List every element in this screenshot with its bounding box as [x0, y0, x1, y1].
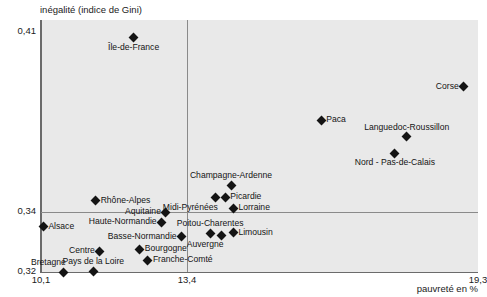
- data-point-label: Pays de la Loire: [62, 257, 124, 266]
- data-point-label: Bretagne: [31, 258, 66, 267]
- data-point-label: Alsace: [48, 222, 74, 231]
- x-tick-label-134: 13,4: [178, 274, 197, 285]
- data-point-label: Île-de-France: [108, 43, 159, 52]
- x-tick-label-101: 10,1: [32, 274, 51, 285]
- data-point-label: Aquitaine: [125, 207, 161, 216]
- data-point-label: Languedoc-Roussillon: [364, 123, 449, 132]
- data-point-label: Haute-Normandie: [89, 217, 157, 226]
- x-axis-line: [40, 272, 478, 274]
- data-point-label: Picardie: [230, 192, 261, 201]
- data-point-label: Nord - Pas-de-Calais: [355, 158, 435, 167]
- data-point-label: Corse: [436, 82, 459, 91]
- data-point-label: Basse-Normandie: [108, 232, 177, 241]
- y-axis-title: inégalité (indice de Gini): [40, 4, 142, 15]
- x-tick-label-193: 19,3: [469, 274, 487, 285]
- data-point-label: Champagne-Ardenne: [190, 171, 272, 180]
- data-point-label: Limousin: [238, 228, 272, 237]
- data-point-label: Rhône-Alpes: [101, 196, 151, 205]
- y-axis-line: [40, 20, 42, 273]
- y-tick-label-034: 0,34: [18, 205, 37, 216]
- data-point-label: Franche-Comté: [153, 255, 213, 264]
- data-point-label: Centre: [69, 246, 95, 255]
- data-point-label: Paca: [326, 115, 346, 124]
- data-point-label: Auvergne: [187, 240, 224, 249]
- data-point-label: Midi-Pyrénées: [163, 203, 218, 212]
- data-point-label: Lorraine: [238, 203, 270, 212]
- data-point-label: Bourgogne: [145, 244, 187, 253]
- vertical-reference-line: [187, 20, 189, 272]
- scatter-chart: inégalité (indice de Gini) pauvreté en %…: [0, 0, 487, 297]
- y-tick-label-041: 0,41: [18, 25, 37, 36]
